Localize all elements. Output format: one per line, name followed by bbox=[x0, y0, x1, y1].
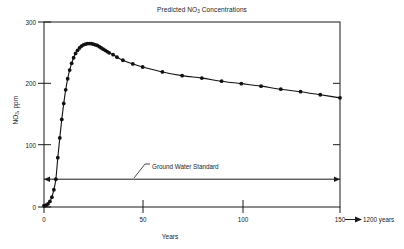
data-point-marker bbox=[131, 62, 135, 66]
data-point-marker bbox=[111, 53, 115, 57]
data-point-marker bbox=[338, 96, 342, 100]
data-point-marker bbox=[279, 87, 283, 91]
data-point-marker bbox=[60, 118, 64, 122]
data-point-marker bbox=[64, 88, 68, 92]
data-series-curve bbox=[44, 44, 340, 206]
data-point-marker bbox=[72, 56, 76, 60]
data-point-marker bbox=[54, 177, 58, 181]
data-point-marker bbox=[299, 90, 303, 94]
axis-break-arrow-icon bbox=[345, 217, 362, 223]
data-point-marker bbox=[52, 188, 56, 192]
data-point-marker bbox=[161, 70, 165, 74]
data-point-marker bbox=[200, 76, 204, 80]
data-point-marker bbox=[48, 200, 52, 204]
data-point-marker bbox=[239, 82, 243, 86]
data-point-markers bbox=[42, 42, 342, 208]
chart-figure: Predicted NO3 Concentrations NO3, ppm Ye… bbox=[0, 0, 404, 249]
data-point-marker bbox=[259, 84, 263, 88]
data-point-marker bbox=[141, 65, 145, 69]
data-point-marker bbox=[50, 195, 54, 199]
ground-water-standard-line bbox=[44, 176, 340, 182]
data-point-marker bbox=[220, 79, 224, 83]
data-point-marker bbox=[121, 58, 125, 62]
data-point-marker bbox=[58, 136, 62, 140]
data-point-marker bbox=[62, 102, 66, 106]
chart-canvas bbox=[0, 0, 404, 249]
data-point-marker bbox=[180, 74, 184, 78]
data-point-marker bbox=[66, 77, 70, 81]
data-point-marker bbox=[115, 55, 119, 59]
data-point-marker bbox=[68, 68, 72, 72]
data-point-marker bbox=[70, 61, 74, 65]
data-point-marker bbox=[318, 93, 322, 97]
data-point-marker bbox=[56, 156, 60, 160]
annotation-leader-line bbox=[134, 164, 150, 178]
data-point-marker bbox=[107, 51, 111, 55]
